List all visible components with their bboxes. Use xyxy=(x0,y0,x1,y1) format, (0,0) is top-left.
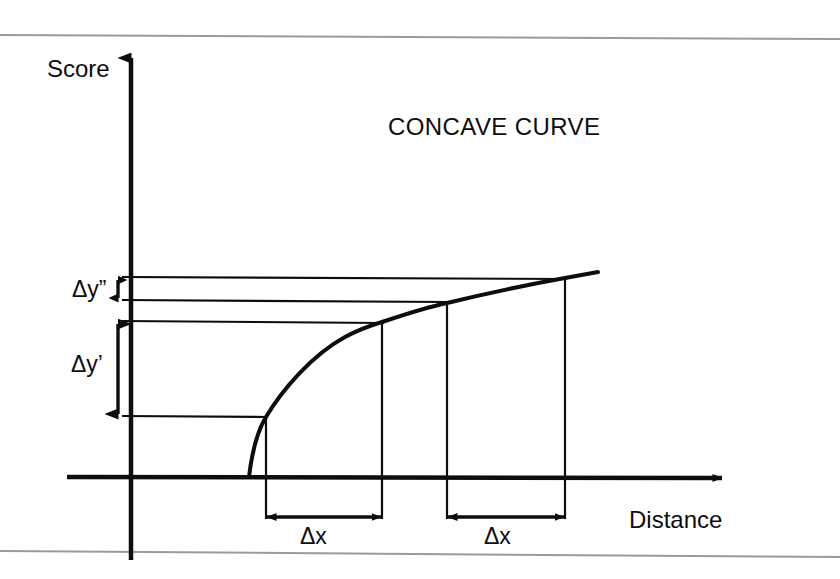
projection-line-y3 xyxy=(122,300,449,302)
page-edge-top-line xyxy=(0,35,840,39)
y-axis-label: Score xyxy=(47,57,110,81)
chart-title: CONCAVE CURVE xyxy=(388,115,600,139)
x-axis-line xyxy=(67,477,722,478)
page-edge-bottom-line xyxy=(0,551,840,557)
delta-x-first-label: Δx xyxy=(300,525,327,548)
delta-x-second-label: Δx xyxy=(484,525,511,548)
projection-line-y2 xyxy=(122,321,384,323)
x-axis-label: Distance xyxy=(629,508,722,532)
concave-curve-diagram xyxy=(0,0,840,579)
projection-line-y4 xyxy=(122,277,567,279)
projection-line-y1 xyxy=(122,416,268,417)
delta-y-second-label: Δy” xyxy=(72,278,107,301)
delta-y-first-label: Δy’ xyxy=(71,353,103,376)
figure-canvas: Score Distance CONCAVE CURVE Δy” Δy’ Δx … xyxy=(0,0,840,579)
